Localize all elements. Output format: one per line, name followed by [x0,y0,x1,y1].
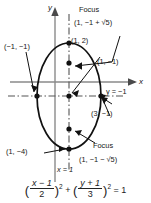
equation-plus: + [65,185,70,195]
equation-numerator-2: y + 1 [78,178,102,189]
x-axis-label: x [139,77,143,86]
label-focus-word-bottom: Focus [93,142,113,149]
focus-bottom-text: (1, −1 − √5) [79,155,117,164]
equation-open-paren-1: ( [25,183,29,198]
label-line-y: y = −1 [106,88,127,95]
label-line-x: x = 1 [57,166,73,173]
arrowhead-bottom-vertex [59,146,65,152]
point-center [66,93,71,98]
point-bottom-vertex [66,146,71,151]
equation-fraction-2: y + 13 [78,178,102,199]
equation-numerator-1: x − 1 [30,178,54,189]
equation-fraction-1: x − 12 [30,178,54,199]
label-focus-top: (1, −1 + √5) [74,19,112,26]
label-focus-word-top: Focus [79,6,99,13]
y-axis-label: y [48,3,52,12]
focus-top-text: (1, −1 + √5) [74,18,112,27]
point-focus-bottom [66,126,71,131]
label-top-vertex: (1, 2) [71,37,88,44]
label-left-vertex: (−1, −1) [4,43,30,50]
equation-exponent-2: 2 [107,183,111,190]
equation-open-paren-2: ( [73,183,77,198]
equation-denominator-2: 3 [78,189,102,199]
point-focus-top [66,60,71,65]
equation-denominator-1: 2 [30,189,54,199]
y-axis-arrow [51,7,58,16]
ellipse-equation: (x − 12)2 + (y + 13)2 = 1 [0,178,151,199]
arrowhead-focus-top [75,62,82,70]
equation-equals: = 1 [114,185,127,195]
leader-center [72,57,100,93]
equation-exponent-1: 2 [59,183,63,190]
point-left-vertex [34,93,39,98]
label-center: (1, −1) [97,58,119,65]
x-axis-arrow [128,78,137,86]
graph-canvas [0,0,151,203]
label-bottom-vertex: (1, −4) [6,148,28,155]
label-right-vertex: (3, −1) [91,110,113,117]
ellipse-figure: x y Focus (1, −1 + √5) (1, 2) (−1, −1) (… [0,0,151,203]
label-focus-bottom: (1, −1 − √5) [79,156,117,163]
